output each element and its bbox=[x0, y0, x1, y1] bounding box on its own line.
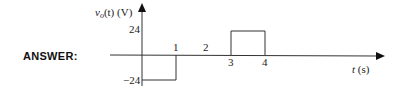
x-tick-3: 3 bbox=[228, 56, 234, 68]
x-tick-1: 1 bbox=[173, 41, 179, 53]
y-tick-24: 24 bbox=[129, 23, 141, 35]
voltage-axis-arrow-icon bbox=[138, 3, 146, 12]
x-tick-4: 4 bbox=[262, 56, 268, 68]
waveform-positive-pulse bbox=[231, 31, 265, 55]
y-tick-neg24: −24 bbox=[123, 74, 141, 86]
time-axis-arrow-icon bbox=[376, 52, 385, 60]
y-axis-label: vo(t) (V) bbox=[95, 6, 133, 20]
time-axis bbox=[110, 55, 378, 56]
x-tick-2: 2 bbox=[203, 41, 209, 53]
waveform-negative-pulse bbox=[142, 55, 176, 80]
waveform-chart: 24 −24 1 2 3 4 vo(t) (V) t (s) bbox=[0, 0, 397, 91]
x-axis-label: t (s) bbox=[352, 63, 370, 76]
